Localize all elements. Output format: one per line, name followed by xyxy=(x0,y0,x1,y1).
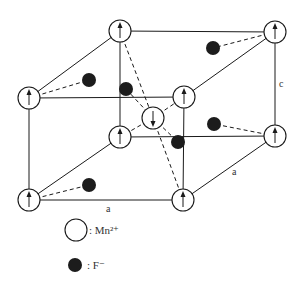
fluoride-ion xyxy=(82,73,96,87)
manganese-ion-spin-up xyxy=(264,125,286,147)
manganese-ion-spin-up xyxy=(173,86,195,108)
legend-mn-label: : Mn²⁺ xyxy=(89,224,119,236)
fluoride-ion xyxy=(82,178,96,192)
manganese-ion-spin-up xyxy=(264,21,286,43)
manganese-ion-spin-down xyxy=(142,107,164,129)
crystal-structure-diagram: a a c : Mn²⁺ : F⁻ xyxy=(0,0,299,283)
manganese-ion-spin-up xyxy=(109,126,131,148)
legend-f-label: : F⁻ xyxy=(87,259,105,271)
manganese-ion-spin-up xyxy=(109,20,131,42)
manganese-ion-spin-up xyxy=(18,87,40,109)
legend-mn-icon xyxy=(65,219,87,241)
fluoride-ion xyxy=(171,135,185,149)
edge-label-c: c xyxy=(279,78,284,89)
mn-atoms xyxy=(18,20,286,211)
fluoride-ion xyxy=(207,117,221,131)
manganese-ion-spin-up xyxy=(172,189,194,211)
legend-f-icon xyxy=(68,258,82,272)
fluoride-ion xyxy=(119,82,133,96)
legend: : Mn²⁺ : F⁻ xyxy=(65,219,119,272)
manganese-ion-spin-up xyxy=(18,189,40,211)
fluoride-ion xyxy=(206,41,220,55)
edge-label-a-front: a xyxy=(106,203,111,214)
edge-label-a-depth: a xyxy=(232,166,237,177)
